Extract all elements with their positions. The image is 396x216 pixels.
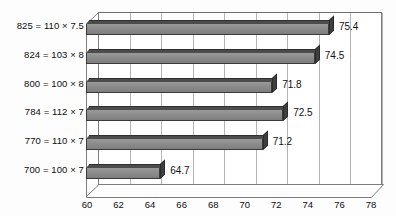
bar-front-face: [86, 82, 272, 93]
x-tick-label: 72: [266, 199, 286, 210]
gridline: [193, 13, 194, 184]
x-tick-label: 68: [203, 199, 223, 210]
gridline: [319, 13, 320, 184]
bar-front-face: [86, 110, 283, 121]
bar: [86, 106, 283, 121]
bar-front-face: [86, 139, 263, 150]
category-label: 825 = 110 × 7.5: [0, 20, 84, 31]
bar: [86, 49, 315, 64]
value-label: 74.5: [325, 50, 344, 61]
value-label: 75.4: [339, 21, 358, 32]
gridline: [130, 13, 131, 184]
category-label: 784 = 112 × 7: [0, 106, 84, 117]
x-tick-label: 76: [329, 199, 349, 210]
category-label: 824 = 103 × 8: [0, 49, 84, 60]
bar-front-face: [86, 53, 315, 64]
bar: [86, 20, 329, 35]
value-label: 71.2: [273, 136, 292, 147]
x-tick-label: 74: [298, 199, 318, 210]
plot-floor: [86, 184, 384, 198]
value-label: 72.5: [293, 107, 312, 118]
bar-front-face: [86, 24, 329, 35]
x-tick-label: 78: [361, 199, 381, 210]
plot-area: 75.474.571.872.571.264.7 606264666870727…: [86, 0, 396, 216]
value-label: 71.8: [282, 79, 301, 90]
bar: [86, 78, 272, 93]
value-label: 64.7: [170, 165, 189, 176]
bar-front-face: [86, 168, 160, 179]
gridline: [224, 13, 225, 184]
x-tick-label: 66: [172, 199, 192, 210]
gridline: [350, 13, 351, 184]
gridline: [256, 13, 257, 184]
bar: [86, 164, 160, 179]
bar: [86, 135, 263, 150]
gridline: [161, 13, 162, 184]
category-label: 800 = 100 × 8: [0, 78, 84, 89]
x-tick-label: 64: [140, 199, 160, 210]
gridline: [287, 13, 288, 184]
category-label: 700 = 100 × 7: [0, 164, 84, 175]
plot-back-wall: [98, 12, 382, 185]
category-label: 770 = 110 × 7: [0, 135, 84, 146]
x-tick-label: 70: [235, 199, 255, 210]
category-axis: 825 = 110 × 7.5824 = 103 × 8800 = 100 × …: [0, 0, 86, 216]
x-tick-label: 62: [109, 199, 129, 210]
bar-chart-figure: 825 = 110 × 7.5824 = 103 × 8800 = 100 × …: [0, 0, 396, 216]
x-tick-label: 60: [77, 199, 97, 210]
gridline: [382, 13, 383, 184]
